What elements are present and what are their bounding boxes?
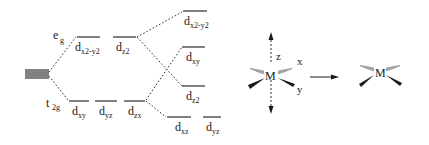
correlation-dx2y2 <box>137 12 182 37</box>
diagram-canvas: e g t 2g d x2-y2 d z2 d xy d yz d zx d <box>0 0 429 145</box>
svg-text:xz: xz <box>181 127 189 136</box>
hashed-bond-right-sp <box>387 65 399 71</box>
sp-level-dx2-y2: d x2-y2 <box>183 11 209 30</box>
hashed-bond-left <box>251 68 263 74</box>
y-axis-label: y <box>297 83 303 95</box>
t2g-label: t 2g <box>46 96 60 112</box>
svg-text:yz: yz <box>105 111 113 120</box>
svg-text:z2: z2 <box>122 47 130 56</box>
svg-text:t: t <box>46 96 50 110</box>
sp-level-dxz: d xz <box>167 117 191 136</box>
metal-center-label-sp: M <box>375 66 386 80</box>
t2g-level-dzx: d zx <box>124 101 145 120</box>
hashed-bond-right <box>279 68 291 74</box>
wedge-bond-left <box>248 78 265 89</box>
x-axis-label: x <box>297 55 303 67</box>
svg-text:e: e <box>53 28 58 42</box>
t2g-level-dyz: d yz <box>95 101 117 120</box>
svg-text:yz: yz <box>212 127 220 136</box>
correlation-line-t2g <box>49 76 68 100</box>
hashed-bond-left-sp <box>361 65 373 71</box>
sp-level-dz2: d z2 <box>182 86 205 105</box>
metal-center-label: M <box>265 69 276 83</box>
svg-text:z2: z2 <box>192 96 200 105</box>
correlation-dxz-dyz <box>146 101 166 117</box>
eg-level-dz2: d z2 <box>113 37 136 56</box>
transformation-arrow <box>310 75 339 80</box>
svg-text:x2-y2: x2-y2 <box>81 47 100 56</box>
svg-text:2g: 2g <box>52 103 60 112</box>
svg-text:xy: xy <box>78 111 86 120</box>
sp-level-dxy: d xy <box>182 47 205 66</box>
wedge-bond-right <box>278 78 295 87</box>
wedge-bond-left-sp <box>359 75 374 87</box>
eg-level-dx2-y2: d x2-y2 <box>75 37 100 56</box>
svg-text:g: g <box>60 36 64 45</box>
svg-text:zx: zx <box>134 111 142 120</box>
svg-text:xy: xy <box>192 57 200 66</box>
arrow-down-icon <box>269 106 274 114</box>
eg-label: e g <box>53 28 64 45</box>
t2g-level-dxy: d xy <box>69 101 89 120</box>
octahedral-complex: M z x y <box>248 32 303 114</box>
correlation-dxy <box>146 47 182 100</box>
svg-text:x2-y2: x2-y2 <box>190 21 209 30</box>
arrow-up-icon <box>269 32 274 40</box>
sp-level-dyz: d yz <box>203 117 221 136</box>
z-axis-label: z <box>276 50 281 62</box>
square-planar-complex: M <box>359 65 402 87</box>
degenerate-d-levels <box>25 70 49 78</box>
correlation-dz2 <box>137 37 182 86</box>
wedge-bond-right-sp <box>386 75 402 86</box>
